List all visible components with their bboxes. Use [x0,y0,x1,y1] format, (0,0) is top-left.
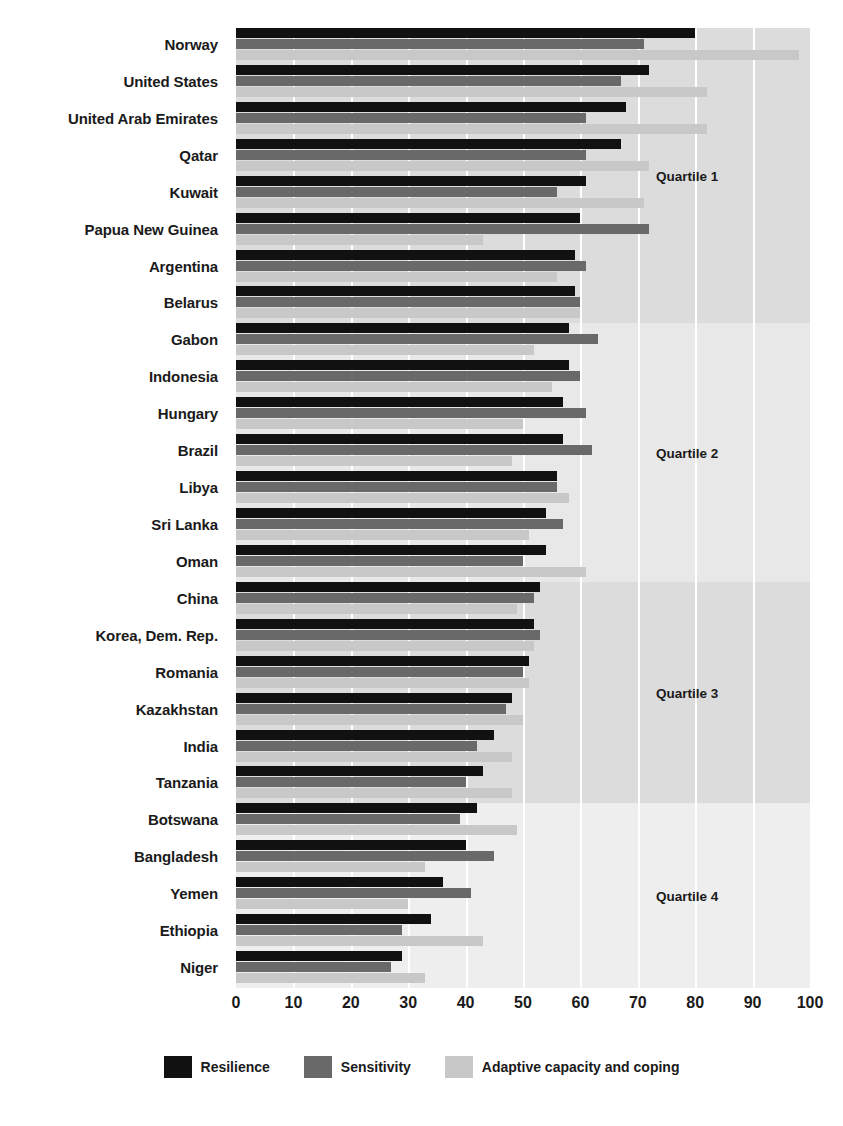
bar-row [236,213,810,250]
bar-sen [236,297,580,307]
category-label: United Arab Emirates [68,111,218,126]
legend-item[interactable]: Sensitivity [304,1056,411,1078]
category-label: Tanzania [156,775,218,790]
bar-row [236,323,810,360]
category-label: Ethiopia [160,923,218,938]
bar-res [236,139,621,149]
legend-item[interactable]: Adaptive capacity and coping [445,1056,680,1078]
x-axis-tick-label: 60 [571,994,589,1012]
bar-row [236,176,810,213]
category-label: Kazakhstan [136,702,218,717]
bar-res [236,397,563,407]
bar-sen [236,962,391,972]
bar-sen [236,371,580,381]
bar-sen [236,334,598,344]
category-label: Korea, Dem. Rep. [95,628,218,643]
bar-res [236,176,586,186]
bar-res [236,619,534,629]
category-label: Gabon [171,332,218,347]
bar-ada [236,87,707,97]
x-axis-tick-label: 10 [284,994,302,1012]
category-label: Bangladesh [134,849,218,864]
category-label: Brazil [178,443,218,458]
x-axis-tick-label: 100 [797,994,824,1012]
x-axis-tick-label: 0 [232,994,241,1012]
bar-sen [236,888,471,898]
bar-ada [236,936,483,946]
bar-sen [236,408,586,418]
bar-ada [236,161,649,171]
bar-ada [236,641,534,651]
quartile-label: Quartile 3 [656,686,718,701]
bar-sen [236,814,460,824]
bar-row [236,545,810,582]
bar-row [236,914,810,951]
bar-res [236,286,575,296]
bar-res [236,250,575,260]
category-label: Hungary [158,406,218,421]
bar-res [236,102,626,112]
bar-row [236,28,810,65]
x-axis-tick-label: 80 [686,994,704,1012]
category-label: Norway [164,37,218,52]
bar-sen [236,667,523,677]
bar-res [236,877,443,887]
bar-res [236,434,563,444]
bar-row [236,139,810,176]
category-label: Niger [180,960,218,975]
bar-ada [236,198,644,208]
bar-sen [236,630,540,640]
bar-row [236,840,810,877]
bar-ada [236,715,523,725]
bar-row [236,951,810,988]
bar-row [236,65,810,102]
legend-label: Sensitivity [341,1059,411,1075]
bar-ada [236,862,425,872]
x-axis-tick-label: 40 [457,994,475,1012]
bar-res [236,65,649,75]
bar-ada [236,50,799,60]
bar-res [236,582,540,592]
bar-sen [236,113,586,123]
bar-res [236,803,477,813]
bar-row [236,877,810,914]
bar-sen [236,150,586,160]
bar-sen [236,187,557,197]
category-label: Libya [179,480,218,495]
bar-ada [236,530,529,540]
bar-row [236,286,810,323]
quartile-label: Quartile 4 [656,889,718,904]
bar-row [236,397,810,434]
legend-item[interactable]: Resilience [164,1056,270,1078]
bar-res [236,323,569,333]
bar-row [236,619,810,656]
bar-ada [236,456,512,466]
bar-res [236,766,483,776]
category-label: Yemen [170,886,218,901]
bar-res [236,471,557,481]
legend-swatch-icon [164,1056,192,1078]
bar-res [236,693,512,703]
quartile-label: Quartile 1 [656,169,718,184]
bar-res [236,730,494,740]
bar-row [236,508,810,545]
bar-res [236,360,569,370]
bar-res [236,914,431,924]
legend-swatch-icon [304,1056,332,1078]
bar-res [236,656,529,666]
category-axis-labels: NorwayUnited StatesUnited Arab EmiratesQ… [0,28,228,988]
plot-area: Quartile 1Quartile 2Quartile 3Quartile 4 [236,28,810,988]
category-label: Papua New Guinea [85,222,218,237]
category-label: Qatar [179,148,218,163]
bar-ada [236,973,425,983]
bar-ada [236,825,517,835]
category-label: Botswana [148,812,218,827]
x-axis-tick-label: 50 [514,994,532,1012]
bar-row [236,766,810,803]
bar-row [236,656,810,693]
x-axis-tick-label: 30 [399,994,417,1012]
bar-row [236,102,810,139]
bar-sen [236,39,644,49]
bar-sen [236,482,557,492]
chart-legend: ResilienceSensitivityAdaptive capacity a… [0,1056,843,1078]
